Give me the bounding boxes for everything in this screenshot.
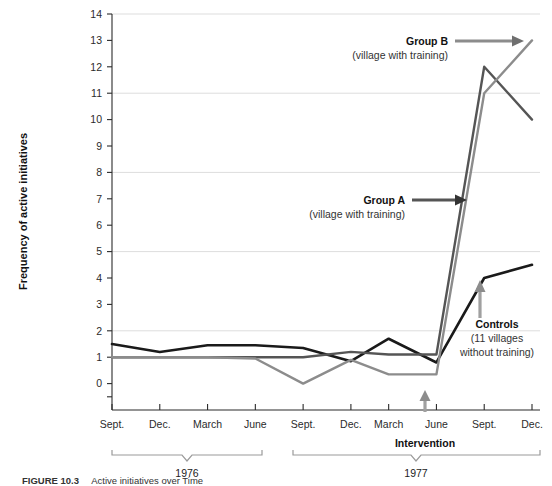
- controls-sub2: without training): [459, 346, 534, 358]
- caption-figure-number: FIGURE 10.3: [22, 475, 79, 486]
- x-tick-label: Sept.: [291, 418, 316, 430]
- group-b-sub: (village with training): [352, 49, 448, 61]
- x-tick-label: Dec.: [149, 418, 171, 430]
- controls-title: Controls: [475, 318, 518, 330]
- figure-root: 14131211109876543210 Sept.Dec.MarchJuneS…: [0, 0, 552, 486]
- y-axis-title: Frequency of active initiatives: [17, 133, 29, 290]
- y-tick-label: 0: [96, 377, 102, 389]
- controls-sub1: (11 villages: [471, 332, 523, 344]
- x-tick-label: Dec.: [340, 418, 362, 430]
- x-tick-label: June: [244, 418, 267, 430]
- y-tick-label: 12: [90, 61, 102, 73]
- year-label-1977: 1977: [404, 467, 428, 479]
- y-tick-label: 6: [96, 219, 102, 231]
- x-tick-label: Sept.: [100, 418, 125, 430]
- svg-text:FIGURE 10.3 Active ini: FIGURE 10.3 Active initiatives over Time: [22, 475, 203, 486]
- y-tick-label: 4: [96, 272, 102, 284]
- y-tick-label: 5: [96, 245, 102, 257]
- caption-text: Active initiatives over Time: [91, 475, 203, 486]
- chart-svg: 14131211109876543210 Sept.Dec.MarchJuneS…: [0, 0, 552, 486]
- y-tick-label: 3: [96, 298, 102, 310]
- x-tick-label: March: [374, 418, 403, 430]
- y-tick-label: 8: [96, 166, 102, 178]
- intervention-label: Intervention: [395, 437, 455, 449]
- y-tick-label: 7: [96, 193, 102, 205]
- group-a-title: Group A: [363, 194, 405, 206]
- x-tick-label: March: [193, 418, 222, 430]
- figure-caption: FIGURE 10.3 Active initiatives over Time: [22, 475, 203, 486]
- y-tick-label: 10: [90, 113, 102, 125]
- x-tick-label: Dec.: [521, 418, 543, 430]
- x-tick-label: Sept.: [472, 418, 497, 430]
- chart-background: [0, 0, 552, 486]
- group-b-title: Group B: [406, 35, 448, 47]
- x-tick-label: June: [425, 418, 448, 430]
- group-a-sub: (village with training): [309, 208, 405, 220]
- y-tick-label: 13: [90, 34, 102, 46]
- y-tick-label: 9: [96, 140, 102, 152]
- y-tick-label: 11: [91, 87, 102, 99]
- y-tick-label: 2: [96, 325, 102, 337]
- y-tick-label: 1: [96, 351, 102, 363]
- y-tick-label: 14: [90, 8, 102, 20]
